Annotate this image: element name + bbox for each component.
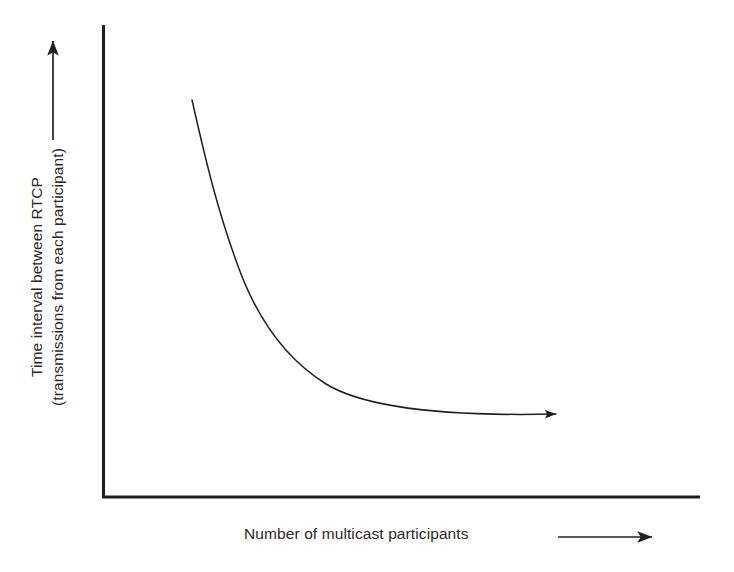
x-axis-label: Number of multicast participants [244,523,469,544]
chart-canvas [0,0,734,572]
y-axis-label-line-2: (transmissions from each participant) [47,46,68,508]
y-axis-label: Time interval between RTCP (transmission… [26,46,70,508]
chart-figure: Time interval between RTCP (transmission… [0,0,734,572]
data-series-curve [192,100,556,414]
y-axis-label-line-1: Time interval between RTCP [26,46,47,508]
